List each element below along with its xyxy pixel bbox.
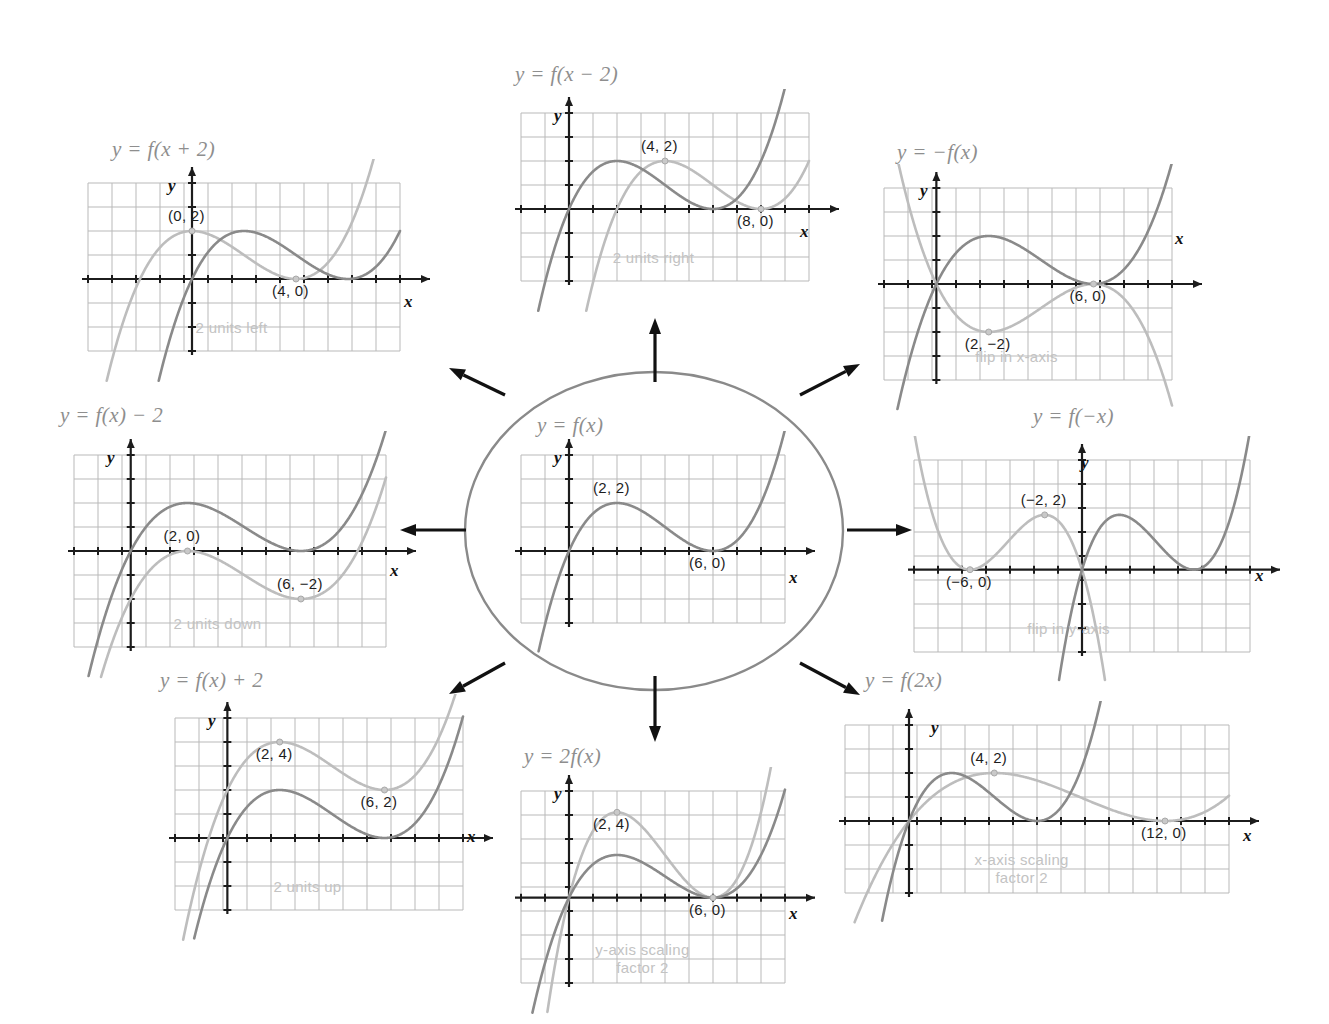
graph-svg-stretch-y: (2, 4)(6, 0)y-axis scalingfactor 2: [481, 767, 815, 1019]
graph-svg-shift-down: (2, 0)(6, −2)2 units down: [34, 431, 416, 683]
svg-text:(−2, 2): (−2, 2): [1021, 491, 1067, 508]
svg-text:(6, 2): (6, 2): [361, 793, 398, 810]
graph-svg-shift-up: (2, 4)(6, 2)2 units up: [135, 694, 493, 946]
svg-text:(4, 2): (4, 2): [641, 137, 678, 154]
y-axis-label-center: y: [554, 448, 562, 468]
x-axis-label-reflect-x: x: [1175, 229, 1184, 249]
svg-text:2 units right: 2 units right: [613, 249, 695, 266]
graph-panel-shift-down: (2, 0)(6, −2)2 units down: [74, 455, 456, 707]
y-axis-label-shift-up: y: [208, 711, 216, 731]
graph-svg-shift-left: (0, 2)(4, 0)2 units left: [48, 159, 430, 387]
svg-text:2 units left: 2 units left: [196, 319, 269, 336]
graph-svg-reflect-y: (−2, 2)(−6, 0)flip in y-axis: [874, 436, 1280, 688]
graph-panel-reflect-y: (−2, 2)(−6, 0)flip in y-axis: [914, 460, 1320, 712]
panel-title-shift-down: y = f(x) − 2: [60, 403, 163, 428]
svg-text:(6, 0): (6, 0): [689, 554, 726, 571]
graph-svg-center: (2, 2)(6, 0): [481, 431, 815, 659]
panel-title-center: y = f(x): [537, 413, 603, 438]
svg-text:(−6, 0): (−6, 0): [946, 573, 992, 590]
graph-panel-center: (2, 2)(6, 0): [521, 455, 855, 683]
svg-text:(2, 2): (2, 2): [593, 479, 630, 496]
panel-title-stretch-y: y = 2f(x): [524, 744, 601, 769]
x-axis-label-center: x: [789, 568, 798, 588]
svg-text:(12, 0): (12, 0): [1141, 824, 1186, 841]
svg-text:flip in y-axis: flip in y-axis: [1027, 620, 1110, 637]
y-axis-label-reflect-y: y: [1081, 453, 1089, 473]
y-axis-label-stretch-y: y: [554, 784, 562, 804]
y-axis-label-shift-left: y: [168, 176, 176, 196]
y-axis-label-shift-right: y: [554, 106, 562, 126]
x-axis-label-shift-right: x: [800, 222, 809, 242]
panel-title-reflect-x: y = −f(x): [897, 140, 978, 165]
svg-text:factor 2: factor 2: [616, 959, 668, 976]
svg-text:(6, −2): (6, −2): [277, 575, 323, 592]
y-axis-label-stretch-x: y: [931, 718, 939, 738]
panel-title-reflect-y: y = f(−x): [1033, 404, 1114, 429]
x-axis-label-shift-left: x: [404, 292, 413, 312]
panel-title-shift-left: y = f(x + 2): [112, 137, 215, 162]
graph-panel-shift-right: (4, 2)(8, 0)2 units right: [521, 113, 879, 341]
panel-title-shift-right: y = f(x − 2): [515, 62, 618, 87]
graph-panel-stretch-x: (4, 2)(12, 0)x-axis scalingfactor 2: [845, 725, 1299, 953]
x-axis-label-shift-up: x: [467, 827, 476, 847]
svg-text:(8, 0): (8, 0): [737, 212, 774, 229]
svg-text:flip in x-axis: flip in x-axis: [975, 348, 1058, 365]
graph-panel-shift-up: (2, 4)(6, 2)2 units up: [175, 718, 533, 970]
graph-svg-shift-right: (4, 2)(8, 0)2 units right: [481, 89, 839, 317]
x-axis-label-stretch-x: x: [1243, 826, 1252, 846]
svg-text:(4, 2): (4, 2): [970, 749, 1007, 766]
panel-title-shift-up: y = f(x) + 2: [160, 668, 263, 693]
panel-title-stretch-x: y = f(2x): [865, 668, 942, 693]
svg-text:(6, 0): (6, 0): [1070, 287, 1107, 304]
y-axis-label-reflect-x: y: [920, 181, 928, 201]
svg-text:y-axis scaling: y-axis scaling: [595, 941, 689, 958]
svg-text:(2, 0): (2, 0): [164, 527, 201, 544]
x-axis-label-reflect-y: x: [1255, 566, 1264, 586]
svg-text:2 units up: 2 units up: [273, 878, 341, 895]
y-axis-label-shift-down: y: [107, 448, 115, 468]
graph-svg-reflect-x: (6, 0)(2, −2)flip in x-axis: [844, 164, 1202, 416]
svg-text:factor 2: factor 2: [995, 869, 1047, 886]
transformation-map-figure: (2, 2)(6, 0)(0, 2)(4, 0)2 units left(4, …: [0, 0, 1329, 1024]
svg-text:x-axis scaling: x-axis scaling: [975, 851, 1069, 868]
graph-svg-stretch-x: (4, 2)(12, 0)x-axis scalingfactor 2: [805, 701, 1259, 929]
graph-panel-reflect-x: (6, 0)(2, −2)flip in x-axis: [884, 188, 1242, 440]
svg-text:(0, 2): (0, 2): [168, 207, 205, 224]
x-axis-label-shift-down: x: [390, 561, 399, 581]
x-axis-label-stretch-y: x: [789, 904, 798, 924]
svg-text:2 units down: 2 units down: [174, 615, 262, 632]
svg-text:(2, 4): (2, 4): [593, 815, 630, 832]
svg-text:(6, 0): (6, 0): [689, 901, 726, 918]
svg-text:(2, 4): (2, 4): [256, 745, 293, 762]
svg-text:(4, 0): (4, 0): [272, 282, 309, 299]
